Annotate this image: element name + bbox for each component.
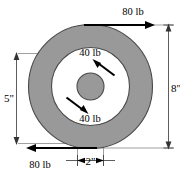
force-label-inner-lower: 40 lb	[79, 113, 100, 124]
force-label-bottom: 80 lb	[29, 159, 50, 170]
dimension-label-right: 8"	[171, 82, 180, 94]
dimension-label-left: 5"	[4, 92, 14, 104]
force-label-top: 80 lb	[122, 6, 143, 17]
force-label-inner-upper: 40 lb	[79, 47, 100, 58]
force-diagram-figure: 80 lb 80 lb 40 lb 40 lb 5" 8" 2"	[0, 0, 180, 172]
pulley-body	[29, 25, 153, 149]
hub-circle	[77, 73, 104, 100]
dimension-line-left	[14, 52, 20, 145]
dimension-label-bottom: 2"	[86, 155, 96, 167]
